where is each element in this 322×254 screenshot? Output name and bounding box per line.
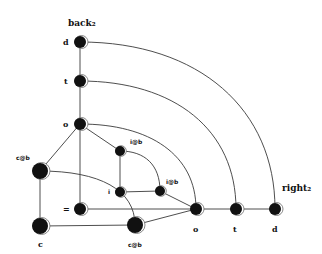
node-right-o bbox=[190, 203, 204, 216]
node-back-o bbox=[74, 118, 88, 131]
node-cb-left bbox=[32, 163, 50, 180]
edges bbox=[40, 42, 275, 226]
node-back-d bbox=[74, 36, 88, 49]
labels: back₂ right₂ d t o c@b c = i@b i i@b c@b… bbox=[16, 18, 311, 249]
node-i bbox=[115, 187, 126, 198]
arc-cb-left-cb-bottom bbox=[40, 171, 135, 225]
label-cb-bottom: c@b bbox=[128, 241, 143, 249]
label-back-o: o bbox=[63, 119, 69, 129]
label-back-d: d bbox=[63, 37, 69, 47]
label-c: c bbox=[38, 239, 43, 249]
node-ib-lower bbox=[155, 186, 166, 197]
label-back-t: t bbox=[64, 76, 68, 86]
node-cb-bottom bbox=[127, 217, 145, 234]
label-i: i bbox=[108, 188, 110, 195]
edge-c-cb-bottom bbox=[40, 225, 135, 226]
arc-back-o-right-o bbox=[80, 124, 196, 209]
node-c bbox=[32, 218, 50, 235]
label-ib-upper: i@b bbox=[130, 138, 143, 146]
label-right-d: d bbox=[272, 224, 278, 234]
node-right-t bbox=[230, 203, 244, 216]
label-right-t: t bbox=[233, 224, 237, 234]
node-ib-upper bbox=[115, 146, 126, 157]
arc-ib-upper-ib-lower bbox=[120, 151, 160, 191]
label-ib-lower: i@b bbox=[166, 178, 179, 186]
node-right-d bbox=[269, 203, 283, 216]
label-back: back₂ bbox=[68, 18, 96, 28]
node-back-t bbox=[74, 75, 88, 88]
graph-diagram: back₂ right₂ d t o c@b c = i@b i i@b c@b… bbox=[0, 0, 322, 254]
label-right-o: o bbox=[193, 224, 199, 234]
label-right: right₂ bbox=[282, 183, 311, 193]
label-cb-left: c@b bbox=[16, 154, 31, 162]
node-eq bbox=[74, 203, 88, 216]
label-eq: = bbox=[63, 204, 70, 214]
